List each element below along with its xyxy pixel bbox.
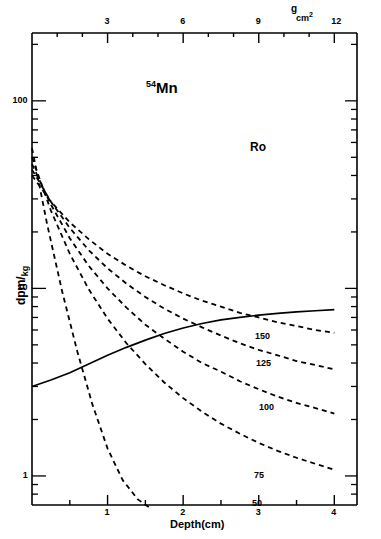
curve-75 (32, 157, 334, 469)
left-axis-title-main: dpm (14, 280, 28, 305)
top-tick-label-12: 12 (331, 17, 341, 26)
ro-annotation: Ro (250, 141, 266, 153)
axis-frame (32, 33, 357, 505)
top-axis-ticks (57, 33, 334, 43)
curve-label-75: 75 (254, 471, 264, 480)
top-axis-title-denominator: cm2 (296, 11, 313, 23)
top-tick-label-9: 9 (256, 17, 261, 26)
left-axis-title-sub: kg (20, 266, 30, 277)
top-tick-label-3: 3 (105, 17, 110, 26)
isotope-mass-number: 54 (146, 79, 156, 89)
isotope-symbol: Mn (156, 79, 178, 96)
left-axis-ticks (32, 44, 46, 494)
left-axis-title: dpm/kg (14, 266, 30, 305)
data-curves (32, 148, 334, 507)
curve-150 (32, 175, 334, 332)
right-axis-ticks (345, 44, 357, 494)
chart-figure: 36912 1234 100101 g cm2 Depth(cm) dpm/kg… (0, 0, 381, 539)
top-axis-title: g cm2 (291, 6, 325, 27)
left-tick-label-1: 1 (23, 471, 28, 480)
curve-100 (32, 164, 334, 414)
left-axis-title-slash: / (14, 276, 28, 279)
bottom-axis-title: Depth(cm) (170, 519, 224, 530)
top-tick-label-6: 6 (180, 17, 185, 26)
left-tick-label-100: 100 (12, 96, 27, 105)
bottom-tick-label-3: 3 (256, 508, 261, 517)
bottom-tick-label-2: 2 (180, 508, 185, 517)
bottom-axis-ticks (70, 495, 335, 505)
bottom-tick-label-4: 4 (331, 508, 336, 517)
curve-measured (32, 310, 334, 387)
curve-label-125: 125 (256, 359, 271, 368)
curve-label-50: 50 (252, 499, 262, 508)
curve-label-100: 100 (259, 403, 274, 412)
figure-root: 36912 1234 100101 g cm2 Depth(cm) dpm/kg… (0, 0, 381, 539)
chart-canvas (0, 0, 381, 539)
isotope-annotation: 54Mn (146, 80, 178, 95)
curve-50 (32, 148, 149, 507)
curve-label-150: 150 (255, 332, 270, 341)
bottom-tick-label-1: 1 (105, 508, 110, 517)
